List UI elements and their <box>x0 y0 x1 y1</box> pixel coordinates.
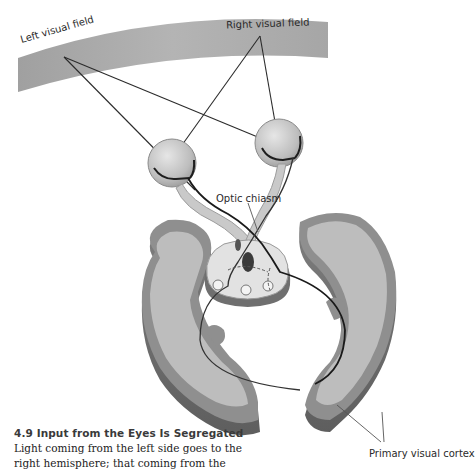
optic-chiasm-label: Optic chiasm <box>216 193 281 204</box>
right-eye <box>255 119 303 167</box>
figure-caption: 4.9 Input from the Eyes Is Segregated Li… <box>14 427 264 471</box>
primary-visual-cortex-label: Primary visual cortex <box>369 448 475 459</box>
right-hemisphere <box>299 213 396 432</box>
ventricle <box>242 252 254 272</box>
thalamus <box>205 239 291 307</box>
caption-body: Light coming from the left side goes to … <box>14 441 264 471</box>
caption-title: 4.9 Input from the Eyes Is Segregated <box>14 427 264 439</box>
